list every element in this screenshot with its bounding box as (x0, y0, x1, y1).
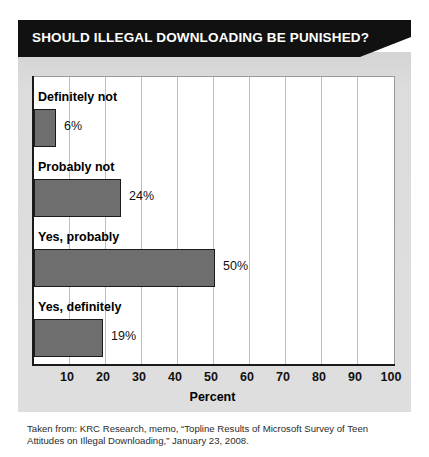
xtick-20: 20 (96, 370, 110, 384)
bar-yes-definitely[interactable] (34, 319, 103, 357)
xtick-40: 40 (168, 370, 182, 384)
title-banner: SHOULD ILLEGAL DOWNLOADING BE PUNISHED? (18, 20, 411, 57)
gridline-70 (285, 76, 286, 364)
xtick-60: 60 (240, 370, 254, 384)
infographic-figure: SHOULD ILLEGAL DOWNLOADING BE PUNISHED? … (0, 0, 429, 457)
bar-value-probably-not: 24% (129, 189, 154, 203)
xtick-10: 10 (60, 370, 74, 384)
x-axis-title: Percent (32, 390, 393, 404)
xtick-70: 70 (276, 370, 290, 384)
bar-label-probably-not: Probably not (38, 160, 114, 174)
bar-label-yes-probably: Yes, probably (38, 230, 119, 244)
bar-yes-probably[interactable] (34, 249, 215, 287)
bar-value-definitely-not: 6% (64, 119, 82, 133)
bar-definitely-not[interactable] (34, 109, 56, 147)
xtick-50: 50 (204, 370, 218, 384)
bar-value-yes-definitely: 19% (111, 329, 136, 343)
gridline-80 (321, 76, 322, 364)
xtick-100: 100 (381, 370, 402, 384)
bar-value-yes-probably: 50% (223, 259, 248, 273)
gridline-30 (141, 76, 142, 364)
xtick-30: 30 (132, 370, 146, 384)
gridline-40 (177, 76, 178, 364)
gridline-20 (105, 76, 106, 364)
gridline-50 (213, 76, 214, 364)
bar-probably-not[interactable] (34, 179, 121, 217)
xtick-80: 80 (312, 370, 326, 384)
plot-area: Definitely not 6% Probably not 24% Yes, … (32, 76, 395, 366)
source-caption: Taken from: KRC Research, memo, “Topline… (27, 423, 407, 446)
page-title: SHOULD ILLEGAL DOWNLOADING BE PUNISHED? (32, 30, 369, 45)
gridline-90 (357, 76, 358, 364)
bar-label-definitely-not: Definitely not (38, 90, 117, 104)
bar-label-yes-definitely: Yes, definitely (38, 300, 121, 314)
gridline-60 (249, 76, 250, 364)
xtick-90: 90 (348, 370, 362, 384)
